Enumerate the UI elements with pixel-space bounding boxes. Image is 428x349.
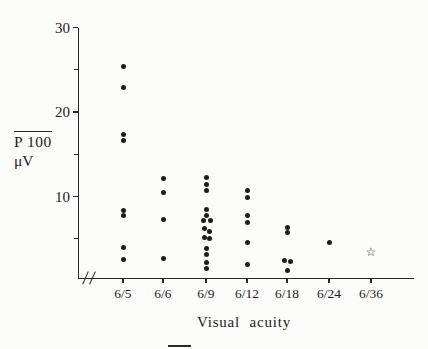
y-axis-label: P 100 μV <box>14 131 52 170</box>
y-axis-tick-label: 20 <box>38 104 70 120</box>
y-axis-label-p100-overlined: P 100 <box>14 131 52 151</box>
x-axis-tick <box>246 278 247 283</box>
data-point-dot <box>121 257 126 262</box>
data-point-dot <box>204 188 209 193</box>
y-axis-minor-tick <box>74 154 78 155</box>
data-point-dot <box>208 218 213 223</box>
data-point-dot <box>327 240 332 245</box>
data-point-dot <box>201 218 206 223</box>
x-axis-tick-label: 6/18 <box>267 287 307 301</box>
data-point-dot <box>288 259 293 264</box>
data-point-dot <box>121 245 126 250</box>
data-point-dot <box>204 175 209 180</box>
data-point-dot <box>285 230 290 235</box>
data-point-dot <box>202 226 207 231</box>
y-axis-minor-tick <box>74 238 78 239</box>
data-point-dot <box>245 262 250 267</box>
y-axis-tick-label: 10 <box>38 189 70 205</box>
x-axis-tick-label: 6/24 <box>309 287 349 301</box>
data-point-dot <box>161 190 166 195</box>
data-point-open-star: ☆ <box>363 246 379 258</box>
data-point-dot <box>161 217 166 222</box>
data-point-dot <box>207 229 212 234</box>
x-axis-tick-label: 6/36 <box>351 287 391 301</box>
data-point-dot <box>282 258 287 263</box>
data-point-dot <box>245 188 250 193</box>
y-axis-major-tick <box>73 196 78 197</box>
x-axis-tick-label: 6/9 <box>186 287 226 301</box>
y-axis-minor-tick <box>74 69 78 70</box>
data-point-dot <box>121 64 126 69</box>
y-axis-major-tick <box>73 111 78 112</box>
data-point-dot <box>204 207 209 212</box>
data-point-dot <box>121 138 126 143</box>
data-point-dot <box>207 236 212 241</box>
y-axis-major-tick <box>73 27 78 28</box>
data-point-dot <box>121 213 126 218</box>
data-point-dot <box>245 220 250 225</box>
data-point-dot <box>285 268 290 273</box>
data-point-dot <box>202 235 207 240</box>
x-axis-tick-label: 6/6 <box>143 287 183 301</box>
y-axis-label-microvolts: μV <box>14 152 52 170</box>
y-axis-tick-label: 30 <box>38 20 70 36</box>
data-point-dot <box>161 176 166 181</box>
data-point-dot <box>121 208 126 213</box>
data-point-dot <box>245 213 250 218</box>
x-axis-tick <box>162 278 163 283</box>
data-point-dot <box>204 266 209 271</box>
data-point-dot <box>204 260 209 265</box>
data-point-dot <box>245 240 250 245</box>
x-axis-tick <box>328 278 329 283</box>
data-point-dot <box>245 195 250 200</box>
y-axis-line <box>78 28 79 278</box>
x-axis-tick-label: 6/5 <box>103 287 143 301</box>
caption-overline-fragment <box>168 345 191 347</box>
x-axis-title: Visual acuity <box>174 314 314 331</box>
x-axis-tick <box>205 278 206 283</box>
scatter-plot-figure: P 100 μV 3020106/56/66/96/126/186/246/36… <box>0 0 428 349</box>
data-point-dot <box>204 252 209 257</box>
data-point-dot <box>204 182 209 187</box>
data-point-dot <box>121 132 126 137</box>
x-axis-tick <box>370 278 371 283</box>
data-point-dot <box>161 256 166 261</box>
x-axis-tick <box>122 278 123 283</box>
x-axis-tick-label: 6/12 <box>227 287 267 301</box>
x-axis-tick <box>286 278 287 283</box>
data-point-dot <box>204 246 209 251</box>
data-point-dot <box>121 85 126 90</box>
